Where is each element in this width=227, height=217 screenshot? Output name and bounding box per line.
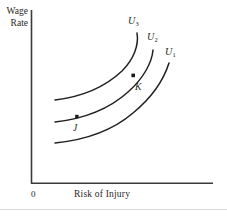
curve-label-u3: U3 bbox=[128, 15, 138, 26]
data-point-j-marker bbox=[75, 115, 78, 118]
curve-label-u1-subscript: 1 bbox=[172, 51, 175, 58]
curve-label-u2-subscript: 2 bbox=[154, 36, 157, 43]
curve-label-u2: U2 bbox=[147, 31, 157, 42]
y-axis-label: Wage Rate bbox=[2, 6, 28, 29]
indifference-curve-chart: Wage Rate Risk of Injury 0 U3 U2 U1 K J bbox=[0, 0, 227, 217]
chart-background bbox=[0, 0, 227, 217]
origin-label: 0 bbox=[31, 189, 36, 199]
curve-label-u1: U1 bbox=[165, 46, 175, 57]
x-axis-label: Risk of Injury bbox=[74, 189, 130, 201]
data-point-label-j: J bbox=[73, 123, 77, 133]
y-axis-label-line-1: Wage bbox=[2, 6, 28, 18]
data-point-label-k: K bbox=[135, 82, 141, 92]
chart-canvas bbox=[0, 0, 227, 217]
curve-label-u3-subscript: 3 bbox=[135, 20, 138, 27]
bottom-divider bbox=[0, 209, 227, 210]
y-axis-label-line-2: Rate bbox=[2, 18, 28, 30]
data-point-k-marker bbox=[131, 74, 135, 78]
